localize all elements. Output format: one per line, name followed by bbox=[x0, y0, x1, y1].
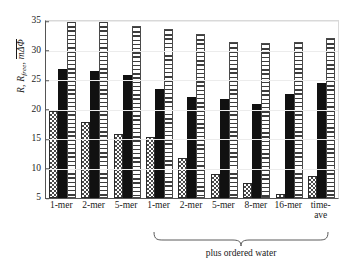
bar-checkered bbox=[211, 174, 220, 198]
bar-solid-black bbox=[252, 104, 261, 198]
x-axis-tick-label: 16-mer bbox=[272, 201, 304, 220]
x-axis-tick-label: 1-mer bbox=[142, 201, 174, 220]
bar-solid-black bbox=[155, 89, 164, 198]
x-axis-labels: 1-mer2-mer5-mer1-mer2-mer5-mer8-mer16-me… bbox=[45, 201, 337, 220]
bar-checkered bbox=[276, 194, 285, 198]
bar-horizontal-stripes bbox=[294, 42, 303, 198]
y-axis-tick-label: 20 bbox=[32, 105, 47, 115]
x-axis-tick-label: 5-mer bbox=[110, 201, 142, 220]
gridline bbox=[46, 51, 338, 52]
y-axis-title: R, Rfree, mΔΦ bbox=[16, 0, 28, 132]
bar-checkered bbox=[81, 122, 90, 198]
bar-checkered bbox=[49, 111, 58, 198]
y-axis-tick-label: 25 bbox=[32, 75, 47, 85]
ordered-water-caption: plus ordered water bbox=[152, 248, 330, 258]
figure: R, Rfree, mΔΦ 5101520253035 1-mer2-mer5-… bbox=[0, 0, 350, 273]
x-axis-tick-label: 8-mer bbox=[240, 201, 272, 220]
x-axis-tick-label: 5-mer bbox=[207, 201, 239, 220]
gridline bbox=[46, 110, 338, 111]
bar-solid-black bbox=[317, 83, 326, 198]
gridline bbox=[46, 21, 338, 22]
gridline bbox=[46, 80, 338, 81]
plot-area: 5101520253035 bbox=[45, 20, 339, 199]
y-axis-title-text: R, Rfree, mΔΦ bbox=[16, 39, 26, 93]
ordered-water-brace bbox=[152, 231, 330, 247]
y-axis-tick-label: 10 bbox=[32, 164, 47, 174]
bar-checkered bbox=[146, 137, 155, 198]
bar-solid-black bbox=[187, 97, 196, 198]
x-axis-tick-label: 2-mer bbox=[175, 201, 207, 220]
bar-horizontal-stripes bbox=[326, 38, 335, 198]
gridline bbox=[46, 169, 338, 170]
bar-horizontal-stripes bbox=[261, 43, 270, 198]
bar-horizontal-stripes bbox=[229, 42, 238, 198]
bar-solid-black bbox=[123, 75, 132, 198]
bar-solid-black bbox=[220, 99, 229, 198]
y-axis-tick-label: 30 bbox=[32, 46, 47, 56]
bar-horizontal-stripes bbox=[132, 26, 141, 198]
y-axis-tick-label: 15 bbox=[32, 134, 47, 144]
bar-solid-black bbox=[58, 69, 67, 198]
gridline bbox=[46, 139, 338, 140]
bar-checkered bbox=[308, 176, 317, 198]
bar-checkered bbox=[243, 183, 252, 198]
x-axis-tick-label: 2-mer bbox=[77, 201, 109, 220]
y-axis-tick-label: 35 bbox=[32, 16, 47, 26]
bar-checkered bbox=[178, 158, 187, 198]
bar-checkered bbox=[114, 134, 123, 198]
bar-horizontal-stripes bbox=[196, 34, 205, 198]
x-axis-tick-label: 1-mer bbox=[45, 201, 77, 220]
x-axis-tick-label: time- ave bbox=[305, 201, 337, 220]
bar-solid-black bbox=[90, 71, 99, 198]
bar-horizontal-stripes bbox=[164, 29, 173, 198]
